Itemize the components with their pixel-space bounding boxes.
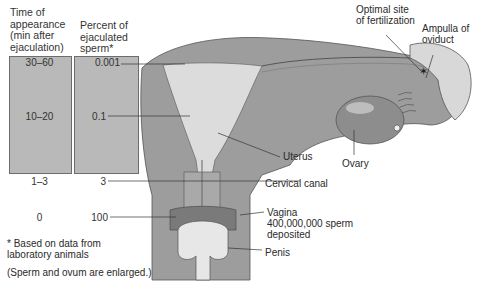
ovary-label: Ovary (342, 158, 369, 169)
penis-label: Penis (265, 247, 290, 258)
ampulla-label: Ampulla of oviduct (422, 23, 469, 45)
data-footnote: * Based on data from laboratory animals (7, 238, 101, 260)
vagina-label: Vagina 400,000,000 sperm deposited (267, 207, 353, 240)
scale-footnote: (Sperm and ovum are enlarged.) (7, 267, 152, 278)
cervical-canal-label: Cervical canal (265, 178, 328, 189)
uterus-label: Uterus (283, 151, 312, 162)
optimal-site-label: Optimal site of fertilization (356, 4, 415, 26)
